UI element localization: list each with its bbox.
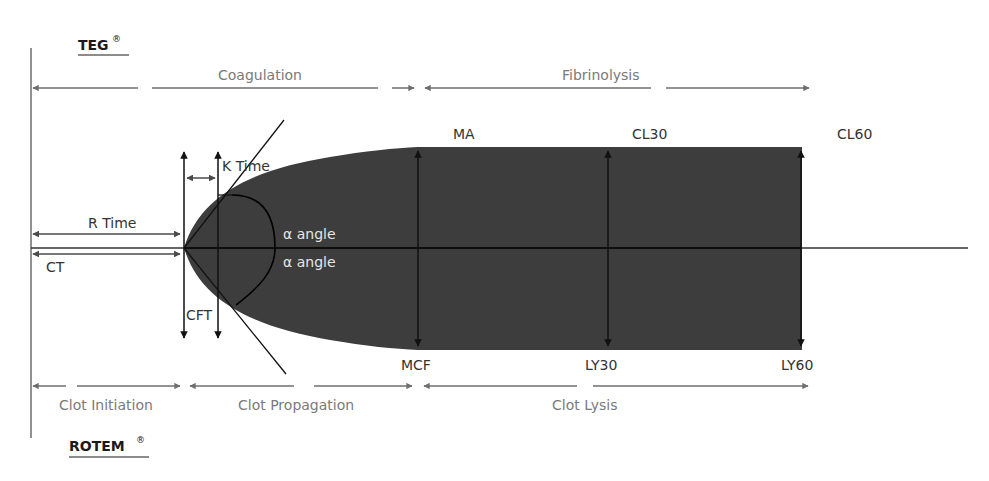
- ma-label: MA: [453, 126, 475, 142]
- rotem-text: ROTEM: [69, 438, 125, 454]
- coagulation-label: Coagulation: [218, 67, 302, 83]
- rotem-brand-label: ROTEM ®: [69, 435, 149, 457]
- clot-initiation-label: Clot Initiation: [59, 397, 153, 413]
- mcf-label: MCF: [401, 357, 431, 373]
- ly30-label: LY30: [585, 357, 617, 373]
- cft-label: CFT: [186, 307, 213, 323]
- r-time-label: R Time: [88, 215, 136, 231]
- thromboelastography-diagram: TEG ® ROTEM ® Coagulation Fibrinolysis C…: [0, 0, 989, 481]
- clot-lysis-label: Clot Lysis: [552, 397, 617, 413]
- teg-registered-mark: ®: [112, 34, 121, 44]
- teg-alpha-angle-label: α angle: [283, 226, 336, 242]
- rotem-alpha-angle-label: α angle: [283, 254, 336, 270]
- k-time-label: K Time: [222, 158, 270, 174]
- teg-text: TEG: [78, 37, 109, 53]
- teg-brand-label: TEG ®: [78, 34, 129, 55]
- rotem-registered-mark: ®: [136, 435, 145, 445]
- cl60-label: CL60: [837, 126, 872, 142]
- cl30-label: CL30: [632, 126, 667, 142]
- ct-label: CT: [46, 259, 65, 275]
- fibrinolysis-label: Fibrinolysis: [562, 67, 640, 83]
- ly60-label: LY60: [781, 357, 813, 373]
- clot-propagation-label: Clot Propagation: [238, 397, 354, 413]
